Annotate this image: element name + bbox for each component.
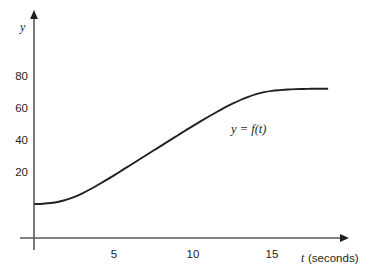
x-tick-label-5: 5 [111, 248, 117, 260]
x-axis-name-group: t (seconds) [301, 251, 359, 265]
x-axis-unit-label: (seconds) [308, 252, 359, 264]
x-axis-group [20, 234, 349, 242]
y-tick-label-40: 40 [15, 134, 28, 146]
y-axis-name-label: y [19, 20, 26, 34]
x-tick-labels: 5 10 15 [111, 248, 279, 260]
graph-svg: y t (seconds) 80 60 40 20 5 10 15 y = f(… [0, 0, 380, 277]
y-axis-group [30, 10, 38, 250]
curve-annotation-label: y = f(t) [229, 122, 267, 136]
y-tick-labels: 80 60 40 20 [15, 70, 28, 178]
y-tick-label-20: 20 [15, 166, 28, 178]
x-axis-name-label: t [301, 251, 305, 265]
y-axis-arrow-icon [30, 10, 38, 19]
y-tick-label-80: 80 [15, 70, 28, 82]
graph-figure: y t (seconds) 80 60 40 20 5 10 15 y = f(… [0, 0, 380, 277]
x-axis-arrow-icon [340, 234, 349, 242]
function-curve [35, 89, 327, 204]
x-tick-label-15: 15 [266, 248, 279, 260]
y-tick-label-60: 60 [15, 102, 28, 114]
x-tick-label-10: 10 [187, 248, 200, 260]
